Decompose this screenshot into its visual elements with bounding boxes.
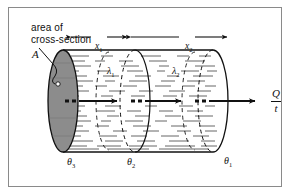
- conductivity-label-lambda2: λ2: [172, 65, 180, 78]
- temperature-label-theta3: θ3: [67, 156, 75, 169]
- area-caption-line2: cross-section: [31, 34, 91, 46]
- dimension-label-x1: x1: [95, 41, 102, 53]
- heat-flow-denominator: t: [271, 103, 281, 115]
- area-symbol-label: A: [32, 48, 39, 61]
- area-leader-anchor-point: [56, 82, 60, 86]
- figure-border: area of cross-section A x1 x2 λ1 λ2 θ3 θ…: [8, 7, 282, 187]
- dimension-label-x2: x2: [185, 41, 192, 53]
- area-caption-line1: area of: [31, 22, 91, 34]
- area-caption: area of cross-section: [31, 22, 91, 45]
- heat-flow-rate-label: Q t: [271, 88, 281, 114]
- temperature-label-theta2: θ2: [127, 156, 135, 169]
- conductivity-label-lambda1: λ1: [107, 65, 115, 78]
- figure-root: area of cross-section A x1 x2 λ1 λ2 θ3 θ…: [0, 0, 291, 195]
- heat-flow-numerator: Q: [271, 88, 281, 100]
- temperature-label-theta1: θ1: [224, 155, 232, 168]
